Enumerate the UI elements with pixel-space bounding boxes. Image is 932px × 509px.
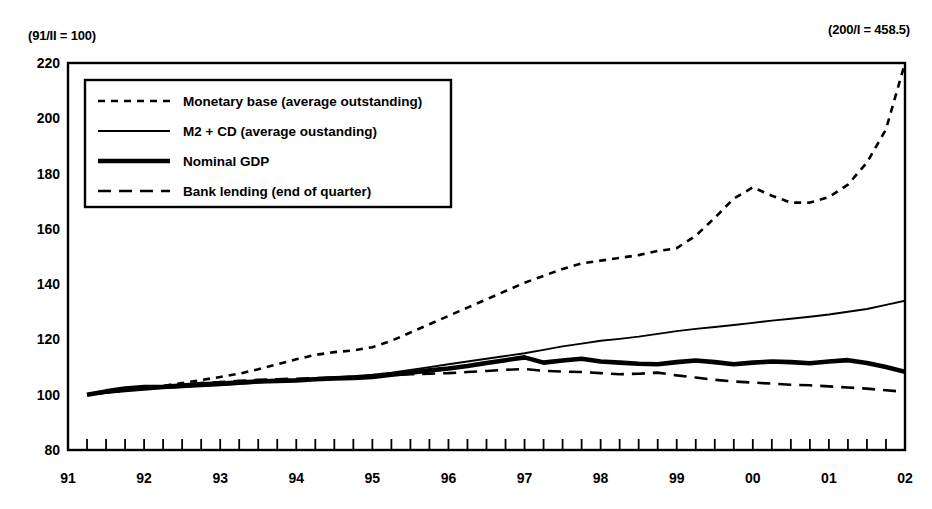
x-tick-label: 91 — [60, 470, 76, 486]
x-tick-label: 96 — [441, 470, 457, 486]
x-tick-label: 98 — [593, 470, 609, 486]
x-tick-label: 94 — [288, 470, 304, 486]
x-tick-label: 95 — [365, 470, 381, 486]
x-tick-label: 97 — [517, 470, 533, 486]
x-tick-label: 99 — [669, 470, 685, 486]
x-tick-label: 00 — [745, 470, 761, 486]
x-tick-label: 02 — [897, 470, 913, 486]
x-tick-label: 93 — [212, 470, 228, 486]
x-tick-label: 01 — [821, 470, 837, 486]
x-axis-labels: 919293949596979899000102 — [0, 0, 932, 509]
chart-container: (91/II = 100) (200/I = 458.5) 8010012014… — [0, 0, 932, 509]
x-tick-label: 92 — [136, 470, 152, 486]
